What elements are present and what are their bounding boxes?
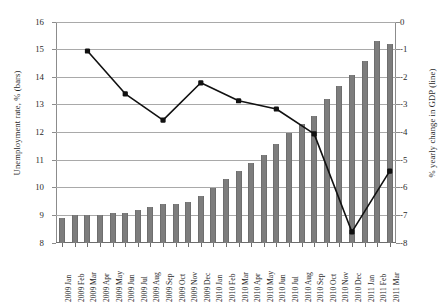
plot-area: 2009 Mar: -1.052009 Jun: -2.62009 Sep: -… [56, 22, 396, 243]
line-marker: 2010 Dec: -7.6 [349, 229, 354, 234]
x-tick-label: 2010 Dec [355, 273, 363, 302]
x-tick-label: 2010 Jun [279, 274, 287, 302]
x-tick-label: 2010 Apr [254, 274, 262, 302]
x-tick-label: 2009 Nov [191, 272, 199, 302]
line-marker: 2010 Sep: -4.05 [312, 131, 317, 136]
y-tick-label-left: 12 [22, 128, 44, 137]
line-marker: 2010 Jun: -3.15 [274, 106, 279, 111]
x-tick-label: 2011 Mar [393, 273, 401, 302]
x-tick-label: 2010 Feb [229, 274, 237, 302]
x-tick-label: 2010 Mar [242, 272, 250, 302]
x-tick-label: 2010 May [267, 271, 275, 302]
y-tick-label-left: 9 [22, 211, 44, 220]
y-tick-label-left: 15 [22, 45, 44, 54]
y-tick-label-left: 13 [22, 100, 44, 109]
x-tick-label: 2010 Oct [330, 274, 338, 302]
line-marker: 2010 Mar: -2.85 [236, 98, 241, 103]
gdp-line-markers: 2009 Mar: -1.052009 Jun: -2.62009 Sep: -… [85, 48, 392, 234]
y-tick-mark-right [396, 215, 400, 216]
x-tick-label: 2009 Oct [179, 274, 187, 302]
gdp-line-path [87, 51, 389, 232]
y-axis-left-title: Unemployment rate, % (bars) [12, 43, 22, 203]
y-tick-mark-right [396, 132, 400, 133]
y-tick-label-right: -1 [400, 45, 424, 54]
y-tick-label-right: 0 [400, 18, 424, 27]
line-marker: 2009 Mar: -1.05 [85, 48, 90, 53]
y-tick-mark-right [396, 104, 400, 105]
y-tick-mark-right [396, 160, 400, 161]
x-tick-label: 2010 Aug [305, 272, 313, 302]
y-tick-label-left: 10 [22, 183, 44, 192]
x-tick-label: 2009 Sep [166, 274, 174, 302]
x-tick-label: 2009 Jun [128, 274, 136, 302]
line-marker: 2009 Dec: -2.2 [198, 80, 203, 85]
y-tick-mark-right [396, 77, 400, 78]
x-tick-label: 2010 Sep [317, 274, 325, 302]
y-axis-right-title: % yearly change in GDP (line) [427, 43, 437, 203]
y-tick-mark-right [396, 49, 400, 50]
x-tick-label: 2010 Jul [292, 276, 300, 302]
x-tick-label: 2009 Jan [65, 275, 73, 302]
x-tick-label: 2011 Jan [368, 275, 376, 302]
x-tick-label: 2009 Feb [78, 274, 86, 302]
x-tick-label: 2010 Jan [216, 275, 224, 302]
x-tick-label: 2009 Aug [153, 272, 161, 302]
x-tick-label: 2010 Nov [342, 272, 350, 302]
y-tick-label-right: -3 [400, 100, 424, 109]
line-series: 2009 Mar: -1.052009 Jun: -2.62009 Sep: -… [56, 22, 396, 243]
y-tick-label-right: -2 [400, 73, 424, 82]
y-tick-label-right: -5 [400, 156, 424, 165]
chart-figure: Unemployment rate, % (bars) % yearly cha… [0, 0, 443, 304]
y-tick-label-left: 14 [22, 73, 44, 82]
x-tick-label: 2009 May [116, 271, 124, 302]
line-marker: 2011 Mar: -5.4 [387, 169, 392, 174]
x-tick-label: 2009 Apr [103, 274, 111, 302]
y-tick-label-left: 16 [22, 18, 44, 27]
y-tick-label-right: -4 [400, 128, 424, 137]
x-tick-label: 2009 Jul [141, 276, 149, 302]
line-marker: 2009 Sep: -3.55 [160, 117, 165, 122]
y-tick-mark-right [396, 22, 400, 23]
line-marker: 2009 Jun: -2.6 [123, 91, 128, 96]
y-tick-label-right: -6 [400, 183, 424, 192]
y-tick-label-left: 11 [22, 156, 44, 165]
x-tick-label: 2009 Mar [90, 272, 98, 302]
x-tick-label: 2009 Dec [204, 273, 212, 302]
y-tick-mark-right [396, 187, 400, 188]
y-tick-mark-right [396, 243, 400, 244]
x-tick-label: 2011 Feb [380, 274, 388, 302]
y-tick-label-right: -7 [400, 211, 424, 220]
x-axis-labels: 2009 Jan2009 Feb2009 Mar2009 Apr2009 May… [0, 246, 443, 304]
